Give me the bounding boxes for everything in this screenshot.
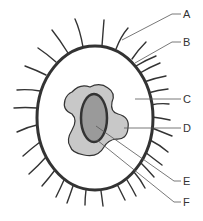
label-d: D (183, 122, 191, 134)
label-a: A (183, 8, 191, 20)
label-c: C (183, 93, 191, 105)
nucleus (81, 94, 107, 142)
label-e: E (183, 175, 190, 187)
label-f: F (183, 196, 190, 208)
label-b: B (183, 36, 190, 48)
cell-diagram: A B C D E F (0, 0, 203, 221)
